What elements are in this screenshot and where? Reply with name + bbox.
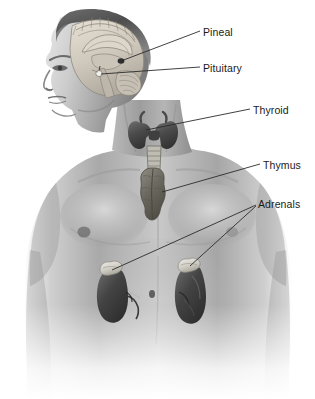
kidney-right <box>175 266 206 324</box>
label-pineal: Pineal <box>203 27 233 38</box>
kidney-left <box>97 268 128 323</box>
endocrine-system-diagram: Pineal Pituitary Thyroid Thymus Adrenals <box>0 0 315 399</box>
thyroid-isthmus <box>148 131 160 141</box>
label-thymus: Thymus <box>263 160 301 171</box>
label-pituitary: Pituitary <box>203 63 242 74</box>
label-adrenals: Adrenals <box>258 199 300 210</box>
nose <box>44 70 52 90</box>
lips <box>48 97 66 99</box>
label-thyroid: Thyroid <box>253 105 289 116</box>
